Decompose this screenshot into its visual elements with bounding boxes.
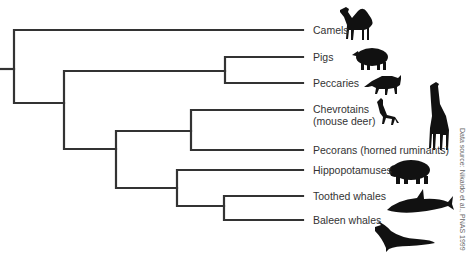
- peccary-icon: [364, 75, 401, 95]
- node-ruminants: [191, 110, 303, 150]
- taxon-label-pigs: Pigs: [313, 51, 333, 63]
- node-pigs-peccaries: [225, 57, 303, 83]
- credit-text: Data source: Nikaido et al., PNAS 1999: [459, 128, 466, 251]
- taxon-label-chevrotains: Chevrotains: [313, 103, 369, 115]
- mouse-deer-icon: [377, 98, 399, 125]
- taxon-label-peccaries: Peccaries: [313, 77, 359, 89]
- pig-icon: [352, 48, 388, 70]
- node-cetaceans: [224, 196, 303, 220]
- node-a: [14, 30, 303, 103]
- taxon-label-pecorans: Pecorans (horned ruminants): [313, 144, 449, 156]
- taxon-label-baleen-whales: Baleen whales: [313, 214, 381, 226]
- node-whippomorpha: [177, 170, 303, 206]
- humpback-whale-icon: [375, 221, 435, 252]
- giraffe-icon: [429, 82, 449, 150]
- taxon-label-hippopotamuses: Hippopotamuses: [313, 164, 392, 176]
- data-source-credit: Data source: Nikaido et al., PNAS 1999: [456, 128, 466, 258]
- phylogenetic-tree: [0, 0, 471, 266]
- taxon-label-toothed-whales: Toothed whales: [313, 190, 386, 202]
- taxon-label-camels: Camels: [313, 24, 349, 36]
- hippopotamus-icon: [389, 160, 430, 184]
- taxon-label-chevrotains-sub: (mouse deer): [313, 115, 375, 127]
- orca-icon: [387, 189, 454, 213]
- node-c: [116, 131, 191, 188]
